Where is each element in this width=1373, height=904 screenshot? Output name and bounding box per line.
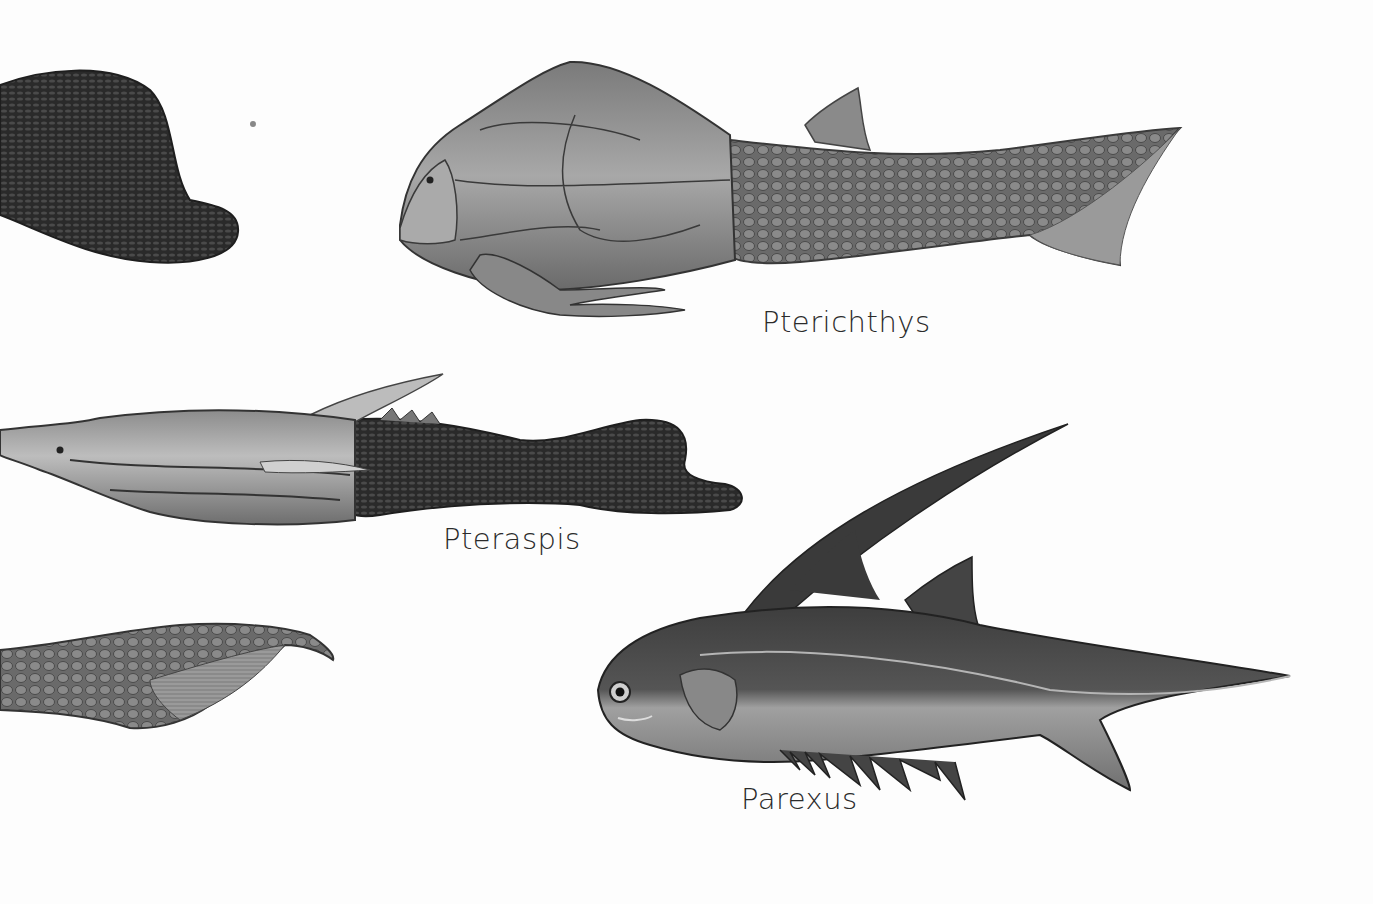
fish-illustrations [0, 0, 1373, 904]
pteraspis-fish [0, 374, 742, 524]
illustration-plate: Pterichthys Pteraspis Parexus [0, 0, 1373, 904]
partial-tail-bottom-left [0, 624, 333, 728]
label-pteraspis: Pteraspis [443, 522, 581, 556]
label-parexus: Parexus [741, 782, 858, 816]
pterichthys-fish [400, 62, 1180, 316]
label-pterichthys: Pterichthys [762, 305, 931, 339]
speck [250, 121, 256, 127]
partial-tail-top-left [0, 71, 238, 263]
